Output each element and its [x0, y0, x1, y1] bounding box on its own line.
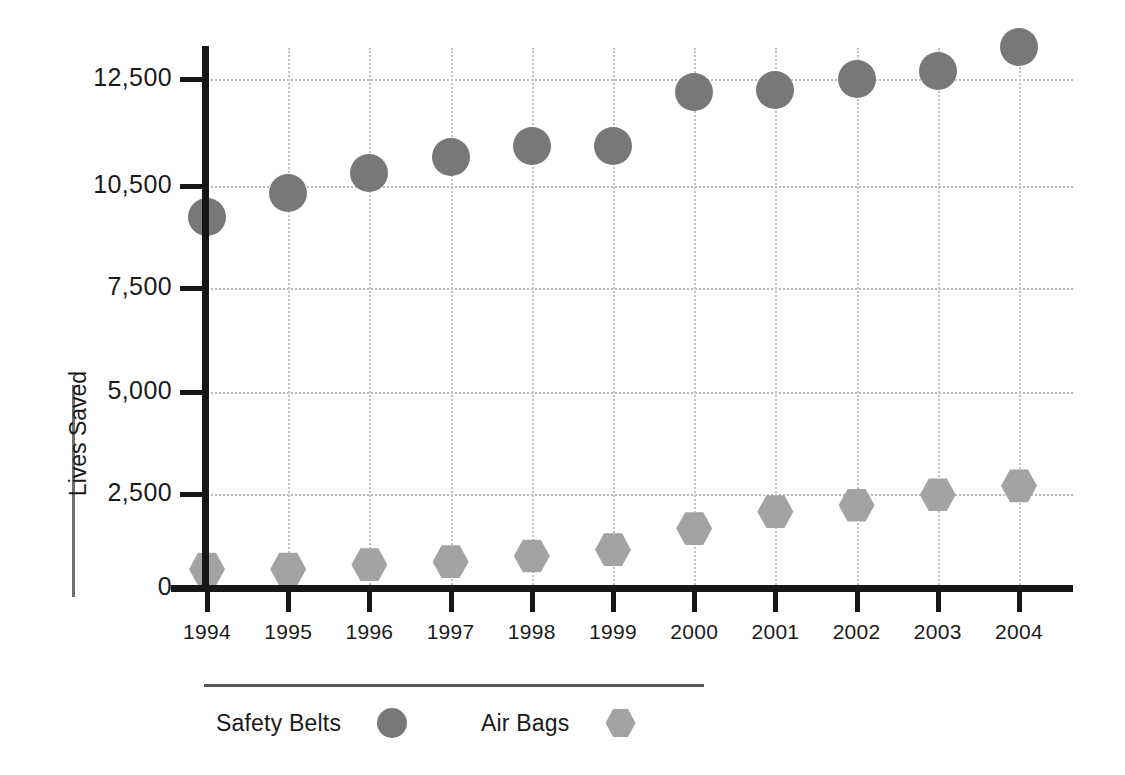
y-axis-tick-label: 12,500 — [52, 63, 172, 92]
x-axis-tick — [936, 592, 941, 612]
y-axis-tick-label: 7,500 — [52, 272, 172, 301]
x-axis-tick — [530, 592, 535, 612]
data-point — [514, 539, 550, 573]
data-point — [270, 552, 306, 586]
x-axis-tick-label: 1998 — [487, 620, 577, 644]
legend-swatch — [606, 709, 636, 738]
x-axis-tick — [773, 592, 778, 612]
x-axis-line — [171, 585, 1073, 592]
y-axis-tick-label: 0 — [52, 572, 172, 601]
legend: Safety BeltsAir Bags — [204, 700, 844, 746]
data-point — [919, 52, 957, 90]
x-axis-tick-label: 1995 — [243, 620, 333, 644]
data-point — [1001, 469, 1037, 503]
x-axis-tick-label: 2004 — [974, 620, 1064, 644]
data-point — [676, 512, 712, 546]
data-point — [757, 495, 793, 529]
data-point — [1000, 28, 1038, 66]
gridline-horizontal — [207, 186, 1073, 188]
data-point — [595, 533, 631, 567]
legend-label: Safety Belts — [216, 710, 341, 737]
x-axis-tick-label: 1999 — [568, 620, 658, 644]
x-axis-tick — [205, 592, 210, 612]
x-axis-tick-label: 2003 — [893, 620, 983, 644]
data-point — [756, 71, 794, 109]
data-point — [513, 127, 551, 165]
legend-divider — [204, 684, 704, 687]
x-axis-tick — [286, 592, 291, 612]
gridline-vertical — [369, 48, 371, 588]
x-axis-tick — [367, 592, 372, 612]
gridline-vertical — [694, 48, 696, 588]
gridline-horizontal — [207, 392, 1073, 394]
data-point — [269, 174, 307, 212]
gridline-vertical — [1019, 48, 1021, 588]
plot-area — [207, 48, 1073, 588]
x-axis-tick — [1017, 592, 1022, 612]
y-axis-tick — [180, 77, 202, 82]
data-point — [433, 545, 469, 579]
y-axis-tick — [180, 390, 202, 395]
legend-item: Air Bags — [481, 700, 636, 746]
legend-item: Safety Belts — [216, 700, 407, 746]
x-axis-tick-label: 2002 — [812, 620, 902, 644]
gridline-vertical — [288, 48, 290, 588]
data-point — [350, 154, 388, 192]
y-axis-tick-label: 10,500 — [52, 170, 172, 199]
x-axis-tick — [692, 592, 697, 612]
x-axis-tick-label: 1994 — [162, 620, 252, 644]
legend-label: Air Bags — [481, 710, 570, 737]
y-axis-title: Lives Saved — [65, 334, 92, 534]
x-axis-tick — [855, 592, 860, 612]
gridline-horizontal — [207, 288, 1073, 290]
y-axis-tick — [180, 184, 202, 189]
legend-swatch — [377, 708, 407, 738]
x-axis-tick-label: 2001 — [730, 620, 820, 644]
data-point — [594, 127, 632, 165]
data-point — [351, 548, 387, 582]
y-axis-tick — [180, 586, 202, 591]
gridline-vertical — [451, 48, 453, 588]
x-axis-tick-label: 2000 — [649, 620, 739, 644]
data-point — [432, 138, 470, 176]
x-axis-tick — [449, 592, 454, 612]
x-axis-tick-label: 1997 — [406, 620, 496, 644]
y-axis-tick — [180, 286, 202, 291]
cropped-title-remnant — [0, 0, 1125, 7]
data-point — [838, 60, 876, 98]
y-axis-line — [202, 46, 209, 592]
y-axis-tick — [180, 492, 202, 497]
data-point — [675, 73, 713, 111]
chart-page: 12,50010,5007,5005,0002,5000 19941995199… — [0, 0, 1125, 775]
x-axis-tick — [611, 592, 616, 612]
x-axis-tick-label: 1996 — [324, 620, 414, 644]
data-point — [920, 478, 956, 512]
